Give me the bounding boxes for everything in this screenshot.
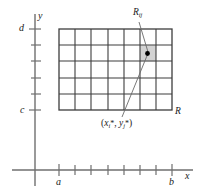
subrectangle-label-subscript: ij	[139, 11, 143, 18]
y-max-bound-label: d	[19, 23, 24, 33]
x-axis-label: x	[185, 171, 189, 181]
rectangle-partition-figure: y x d c a b R Rij (xi*, yj*)	[0, 0, 199, 192]
figure-canvas	[0, 0, 199, 192]
subrectangle-label: Rij	[133, 8, 142, 18]
sample-point-leader-line	[122, 55, 148, 118]
y-min-bound-label: c	[20, 105, 24, 115]
sample-point-label: (xi*, yj*)	[101, 119, 132, 129]
grid-vertical-lines	[75, 29, 156, 110]
x-min-bound-label: a	[56, 177, 61, 187]
region-rectangle-outline	[59, 29, 172, 110]
y-axis-label: y	[38, 11, 42, 21]
sample-point-close-paren: )	[129, 118, 132, 128]
x-max-bound-label: b	[169, 177, 174, 187]
sample-point-dot	[145, 51, 150, 56]
region-label: R	[175, 107, 181, 117]
